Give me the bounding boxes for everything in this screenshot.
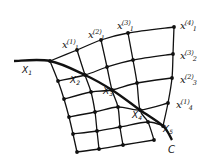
grid-node (62, 97, 66, 101)
grid-line (73, 122, 163, 134)
grid-node (116, 105, 120, 109)
grid-node (56, 79, 60, 83)
grid-node (170, 76, 174, 80)
characteristic-point-label: X3 (103, 87, 113, 98)
characteristic-point-label: X1 (22, 66, 32, 77)
grid-node (172, 25, 176, 29)
grid-node (131, 58, 135, 62)
grid-node (95, 129, 99, 133)
characteristic-point-label: X5 (163, 125, 173, 136)
grid-line (77, 140, 154, 152)
grid-point-label: x(3)2 (180, 48, 197, 64)
grid-node (135, 81, 139, 85)
characteristic-grid-diagram (0, 0, 208, 162)
characteristic-point-label: X2 (70, 76, 80, 87)
characteristic-point-label: X4 (132, 111, 142, 122)
grid-point-label: x(3)1 (117, 18, 134, 34)
grid-node (48, 59, 52, 63)
grid-node (152, 138, 156, 142)
grid-point-label: x(1)4 (176, 97, 193, 113)
grid-node (93, 110, 97, 114)
grid-node (118, 125, 122, 129)
grid-node (171, 52, 175, 56)
grid-node (71, 132, 75, 136)
grid-line (64, 78, 172, 99)
grid-node (105, 65, 109, 69)
grid-line (77, 50, 99, 149)
grid-point-label: x(2)1 (88, 27, 105, 43)
grid-node (83, 73, 87, 77)
grid-node (67, 115, 71, 119)
grid-point-label: x(4)1 (180, 18, 197, 34)
curve-c-label: C (168, 145, 175, 154)
grid-point-label: x(2)3 (180, 72, 197, 88)
grid-point-label: x(1)1 (62, 37, 79, 53)
grid-node (166, 101, 170, 105)
grid-node (121, 143, 125, 147)
grid-node (146, 120, 150, 124)
grid-node (89, 90, 93, 94)
grid-node (75, 150, 79, 154)
grid-node (97, 147, 101, 151)
